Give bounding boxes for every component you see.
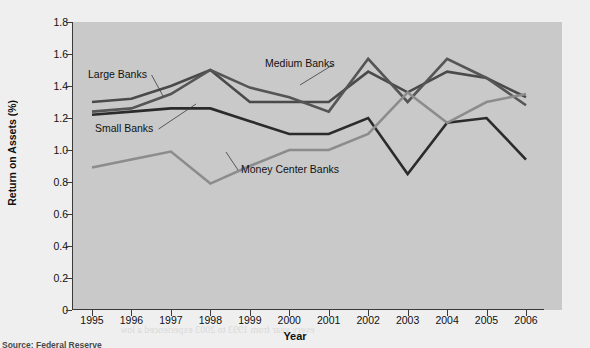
y-axis-tick-mark: [66, 22, 72, 23]
y-axis-tick-label: 1.2: [34, 112, 68, 124]
y-axis-tick-label: 1.4: [34, 80, 68, 92]
x-axis-tick-mark: [329, 310, 330, 316]
series-label: Money Center Banks: [241, 163, 339, 175]
y-axis-tick-mark: [66, 310, 72, 311]
y-axis-tick-label: 1.6: [34, 48, 68, 60]
y-axis-tick-mark: [66, 118, 72, 119]
x-axis-tick-mark: [487, 310, 488, 316]
series-label-leader-line: [226, 152, 238, 170]
y-axis-tick-mark: [66, 182, 72, 183]
x-axis-tick-mark: [250, 310, 251, 316]
chart-figure: Return on Equity (ROE)Return on equity (…: [0, 0, 590, 348]
x-axis-tick-mark: [131, 310, 132, 316]
y-axis-tick-label: 1.0: [34, 144, 68, 156]
x-axis-tick-mark: [526, 310, 527, 316]
y-axis-tick-label: 1.8: [34, 16, 68, 28]
x-axis-tick-mark: [92, 310, 93, 316]
y-axis-tick-label: 0.2: [34, 272, 68, 284]
y-axis-tick-label: 0.4: [34, 240, 68, 252]
y-axis-tick-label: 0: [34, 304, 68, 316]
x-axis-tick-mark: [171, 310, 172, 316]
y-axis-tick-mark: [66, 54, 72, 55]
series-label: Medium Banks: [265, 57, 334, 69]
x-axis-tick-mark: [408, 310, 409, 316]
series-label: Large Banks: [88, 68, 147, 80]
y-axis-tick-label: 0.6: [34, 208, 68, 220]
y-axis-tick-labels: 1.81.61.41.21.00.80.60.40.20: [30, 0, 68, 348]
x-axis-tick-mark: [368, 310, 369, 316]
y-axis-tick-mark: [66, 278, 72, 279]
y-axis-tick-mark: [66, 86, 72, 87]
source-note: Source: Federal Reserve: [2, 340, 102, 348]
y-axis-title: Return on Assets (%): [6, 100, 22, 206]
series-line: [92, 70, 526, 102]
series-label: Small Banks: [95, 122, 153, 134]
y-axis-tick-mark: [66, 150, 72, 151]
y-axis-tick-mark: [66, 246, 72, 247]
x-axis-tick-mark: [447, 310, 448, 316]
y-axis-tick-mark: [66, 214, 72, 215]
y-axis-tick-label: 0.8: [34, 176, 68, 188]
x-axis-tick-mark: [210, 310, 211, 316]
x-axis-tick-mark: [289, 310, 290, 316]
